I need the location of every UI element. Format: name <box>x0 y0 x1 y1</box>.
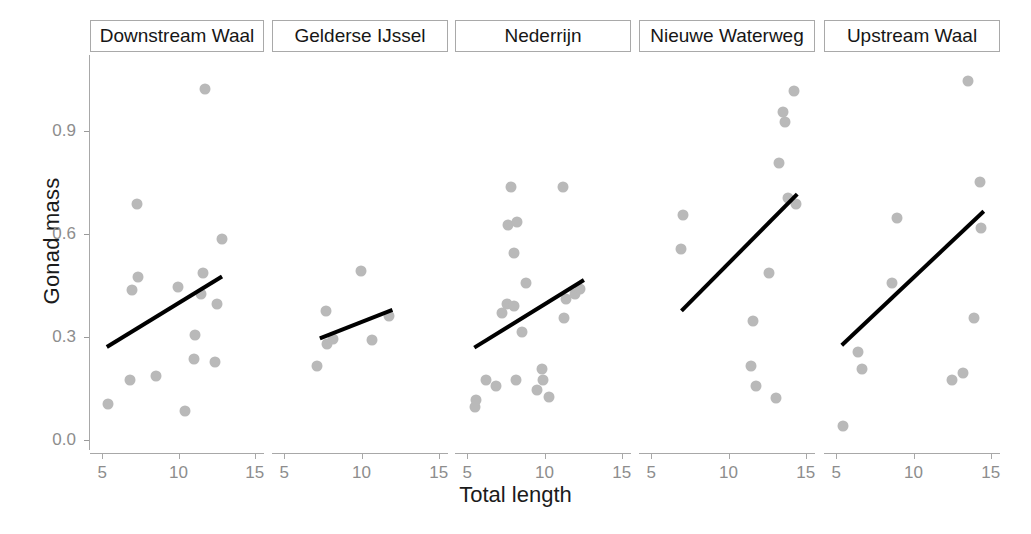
y-tick-label: 0.3 <box>30 327 76 347</box>
regression-line <box>90 55 264 450</box>
x-axis-title: Total length <box>0 482 1031 508</box>
x-tick-label: 10 <box>719 463 738 483</box>
plot-area <box>824 55 1000 450</box>
facet-panel-0: Downstream Waal51015 <box>90 55 264 450</box>
x-tick-mark <box>439 453 440 459</box>
x-tick-label: 15 <box>796 463 815 483</box>
x-tick-mark <box>255 453 256 459</box>
x-tick-mark <box>806 453 807 459</box>
facet-panel-4: Upstream Waal51015 <box>824 55 1000 450</box>
x-tick-label: 10 <box>535 463 554 483</box>
panel-strip-label: Upstream Waal <box>824 20 1000 52</box>
x-tick-mark <box>179 453 180 459</box>
x-tick-label: 5 <box>280 463 289 483</box>
facet-panel-3: Nieuwe Waterweg51015 <box>639 55 815 450</box>
x-tick-mark <box>284 453 285 459</box>
x-tick-mark <box>622 453 623 459</box>
x-tick-mark <box>914 453 915 459</box>
plot-area <box>639 55 815 450</box>
plot-area <box>455 55 631 450</box>
y-tick-mark <box>84 440 89 441</box>
regression-line <box>455 55 631 450</box>
figure-root: Gonad mass Total length 0.00.30.60.9 Dow… <box>0 0 1031 534</box>
x-tick-label: 5 <box>97 463 106 483</box>
x-tick-label: 15 <box>245 463 264 483</box>
regression-line <box>824 55 1000 450</box>
x-tick-mark <box>467 453 468 459</box>
plot-area <box>90 55 264 450</box>
panel-strip-label: Downstream Waal <box>90 20 264 52</box>
x-axis-line <box>455 453 631 454</box>
x-tick-label: 5 <box>647 463 656 483</box>
x-axis-line <box>639 453 815 454</box>
x-tick-label: 5 <box>832 463 841 483</box>
panel-strip-label: Nieuwe Waterweg <box>639 20 815 52</box>
y-tick-mark <box>84 234 89 235</box>
y-tick-mark <box>84 337 89 338</box>
panel-strip-label: Gelderse IJssel <box>272 20 448 52</box>
x-tick-mark <box>991 453 992 459</box>
x-tick-mark <box>651 453 652 459</box>
x-tick-label: 5 <box>463 463 472 483</box>
regression-line <box>272 55 448 450</box>
x-axis-line <box>90 453 264 454</box>
x-tick-label: 10 <box>904 463 923 483</box>
x-tick-label: 15 <box>612 463 631 483</box>
y-tick-label: 0.6 <box>30 224 76 244</box>
x-axis-line <box>824 453 1000 454</box>
x-tick-mark <box>102 453 103 459</box>
x-tick-mark <box>836 453 837 459</box>
x-axis-line <box>272 453 448 454</box>
y-tick-label: 0.0 <box>30 430 76 450</box>
regression-line <box>639 55 815 450</box>
x-tick-mark <box>362 453 363 459</box>
plot-area <box>272 55 448 450</box>
x-tick-mark <box>729 453 730 459</box>
x-tick-label: 10 <box>169 463 188 483</box>
panel-strip-label: Nederrijn <box>455 20 631 52</box>
x-tick-mark <box>545 453 546 459</box>
y-tick-label: 0.9 <box>30 121 76 141</box>
facet-panel-1: Gelderse IJssel51015 <box>272 55 448 450</box>
y-tick-mark <box>84 131 89 132</box>
x-tick-label: 15 <box>429 463 448 483</box>
x-tick-label: 15 <box>981 463 1000 483</box>
facet-panel-2: Nederrijn51015 <box>455 55 631 450</box>
x-tick-label: 10 <box>352 463 371 483</box>
